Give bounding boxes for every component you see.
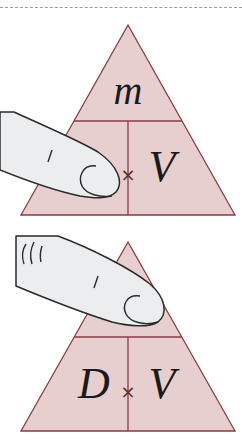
multiply-sign: × <box>120 164 135 185</box>
multiply-sign: × <box>120 381 135 402</box>
label-m: m <box>114 68 143 113</box>
formula-triangle-top: m V × <box>0 25 235 215</box>
finger-icon <box>16 236 164 326</box>
label-d: D <box>77 359 110 408</box>
formula-triangle-bottom: D V × <box>16 236 235 431</box>
